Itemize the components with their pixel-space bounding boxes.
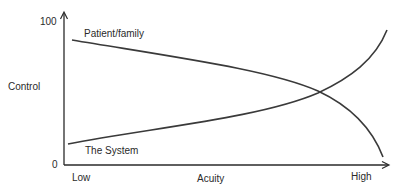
x-axis-label: Acuity xyxy=(197,174,224,184)
y-tick-100: 100 xyxy=(40,17,57,27)
series-patient-family-line xyxy=(72,40,383,157)
x-tick-high: High xyxy=(351,172,372,182)
series-label-patient-family: Patient/family xyxy=(84,29,144,39)
y-axis-label: Control xyxy=(8,82,40,92)
y-tick-0: 0 xyxy=(52,160,58,170)
series-label-the-system: The System xyxy=(85,146,138,156)
chart-canvas xyxy=(0,0,399,193)
x-tick-low: Low xyxy=(72,173,90,183)
control-vs-acuity-chart: 100 0 Control Low Acuity High Patient/fa… xyxy=(0,0,399,193)
